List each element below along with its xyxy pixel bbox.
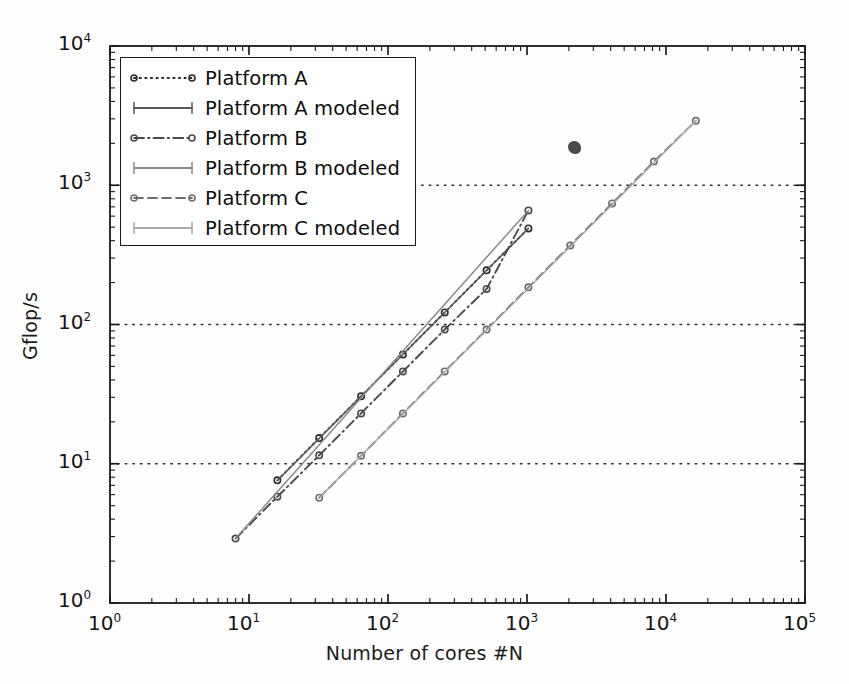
x-tick-label: 101 — [227, 611, 260, 635]
legend-entry[interactable]: Platform C modeled — [121, 213, 415, 243]
legend-label: Platform A — [205, 67, 308, 90]
y-tick-label: 104 — [58, 31, 91, 55]
legend-box: Platform APlatform A modeledPlatform BPl… — [120, 57, 416, 246]
legend-line-sample — [130, 158, 196, 178]
series-line — [277, 228, 528, 480]
legend-entry[interactable]: Platform B modeled — [121, 153, 415, 183]
legend-label: Platform A modeled — [205, 97, 400, 120]
legend-line-sample — [130, 188, 196, 208]
figure-canvas: 100101102103104105100101102103104 Number… — [0, 0, 849, 684]
x-tick-label: 100 — [88, 611, 121, 635]
x-tick-label: 103 — [505, 611, 538, 635]
legend-entry[interactable]: Platform A — [121, 63, 415, 93]
legend-label: Platform B — [205, 127, 308, 150]
legend-line-sample — [130, 218, 196, 238]
legend-label: Platform C modeled — [205, 217, 400, 240]
x-axis-label: Number of cores #N — [0, 642, 849, 664]
legend-entry[interactable]: Platform B — [121, 123, 415, 153]
y-tick-label: 103 — [58, 170, 91, 194]
legend-line-sample — [130, 68, 196, 88]
x-tick-label: 105 — [783, 611, 816, 635]
legend-label: Platform C — [205, 187, 308, 210]
ink-blot-artifact — [568, 141, 581, 154]
x-tick-label: 104 — [644, 611, 677, 635]
legend-entry[interactable]: Platform C — [121, 183, 415, 213]
legend-line-sample — [130, 128, 196, 148]
y-tick-label: 102 — [58, 310, 91, 334]
y-axis-label: Gflop/s — [19, 266, 41, 386]
legend-label: Platform B modeled — [205, 157, 400, 180]
y-tick-label: 100 — [58, 588, 91, 612]
legend-line-sample — [130, 98, 196, 118]
series-line — [236, 210, 529, 538]
y-tick-label: 101 — [58, 449, 91, 473]
legend-entry[interactable]: Platform A modeled — [121, 93, 415, 123]
x-tick-label: 102 — [366, 611, 399, 635]
